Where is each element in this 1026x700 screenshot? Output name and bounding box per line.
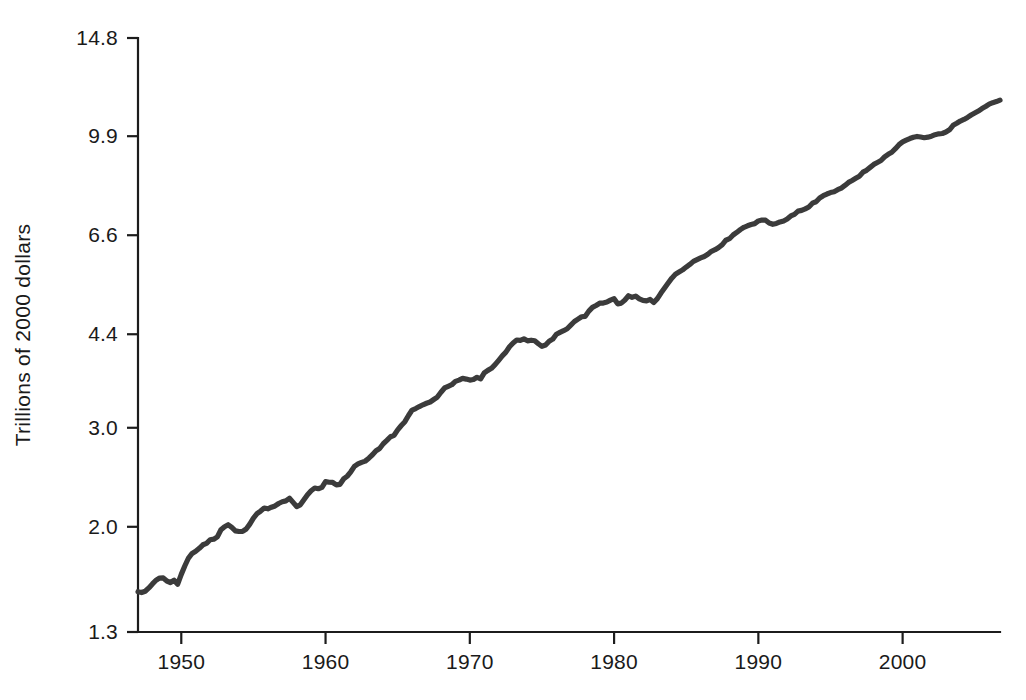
x-tick-label: 1980	[590, 650, 638, 673]
y-axis-tick-labels: 1.32.03.04.46.69.914.8	[76, 26, 118, 643]
real-gdp-line	[138, 100, 1000, 592]
line-chart: 1.32.03.04.46.69.914.8 19501960197019801…	[0, 0, 1026, 700]
y-tick-label: 2.0	[88, 515, 118, 538]
y-axis-title-text: Trillions of 2000 dollars	[11, 224, 34, 447]
y-tick-label: 1.3	[88, 620, 118, 643]
y-tick-label: 4.4	[88, 322, 118, 345]
x-tick-label: 1950	[158, 650, 206, 673]
y-tick-label: 6.6	[88, 223, 118, 246]
x-axis-tick-labels: 195019601970198019902000	[158, 650, 927, 673]
chart-figure: 1.32.03.04.46.69.914.8 19501960197019801…	[0, 0, 1026, 700]
x-tick-label: 1990	[735, 650, 783, 673]
y-tick-label: 9.9	[88, 124, 118, 147]
y-tick-label: 14.8	[76, 26, 118, 49]
y-tick-label: 3.0	[88, 416, 118, 439]
y-axis-title: Trillions of 2000 dollars	[11, 224, 34, 447]
x-tick-label: 2000	[879, 650, 927, 673]
axis-frame	[138, 38, 1000, 632]
x-tick-label: 1970	[446, 650, 494, 673]
x-tick-label: 1960	[302, 650, 350, 673]
